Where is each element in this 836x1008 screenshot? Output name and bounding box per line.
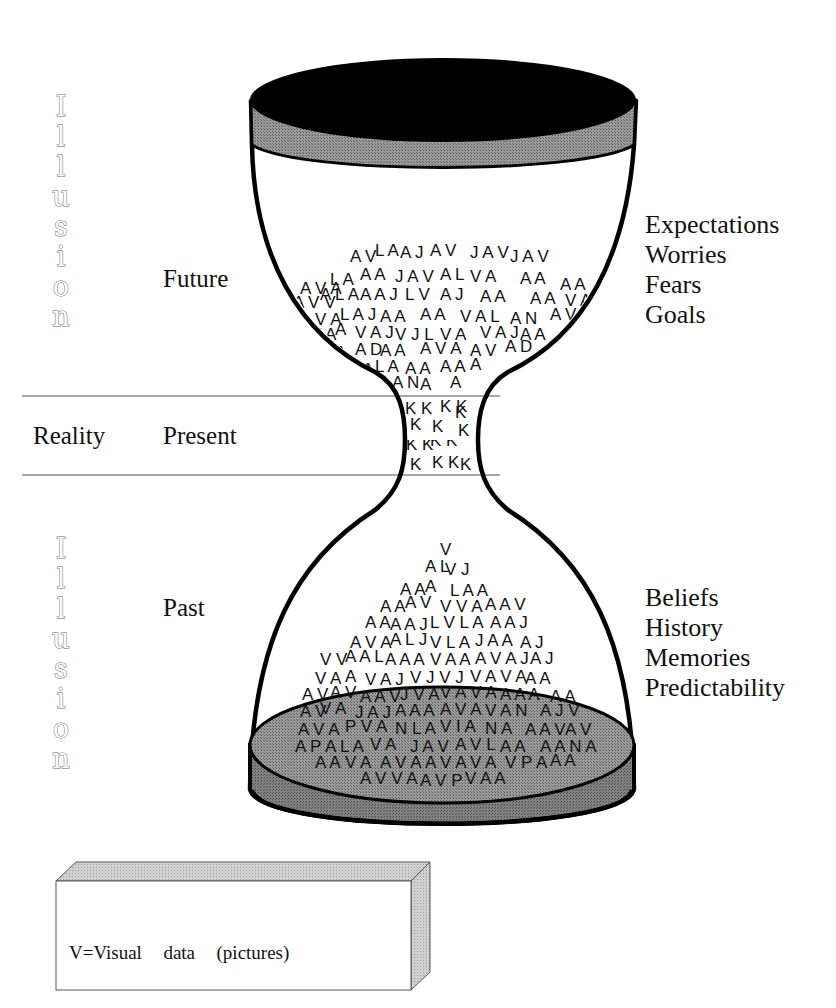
legend-box-top-face (56, 862, 430, 881)
hourglass-diagram: A VL AA JA VJ A VJ A V A V AL AA AJ A VA… (0, 0, 836, 1008)
legend-line-visual: V=Visual data (pictures) (69, 942, 327, 964)
legend-box (0, 0, 836, 1008)
legend-text: V=Visual data (pictures) A=Auditory data… (69, 898, 327, 1008)
legend-box-side-face (411, 862, 430, 990)
